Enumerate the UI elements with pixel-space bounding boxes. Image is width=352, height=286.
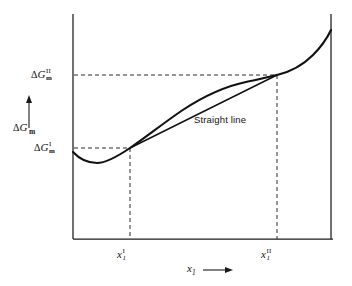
gm-II-affixes: IIm (46, 68, 52, 83)
x1-II-affixes: II1 (266, 248, 271, 263)
y-tick-label-delta-gm-I: ΔGIm (34, 141, 55, 156)
gibbs-energy-curve (73, 30, 331, 163)
subscript-m: m (46, 75, 52, 82)
g-symbol-upper: G (37, 68, 45, 80)
subscript-m-axis: m (29, 127, 35, 136)
x-symbol-right: x (261, 248, 266, 260)
x-tick-label-x1-I: xI1 (117, 248, 126, 263)
x-axis-title: x1 (187, 263, 196, 277)
gibbs-energy-figure: ΔGIIm ΔGIm ΔGm xI1 xII1 x1 Straight line (0, 0, 352, 286)
subscript-1: 1 (266, 255, 271, 262)
subscript-1-axis: 1 (192, 268, 196, 277)
x-tick-label-x1-II: xII1 (261, 248, 271, 263)
y-tick-label-delta-gm-II: ΔGIIm (31, 68, 52, 83)
g-symbol-axis: G (19, 121, 27, 133)
y-axis-title: ΔGm (13, 122, 35, 136)
x-symbol-left: x (117, 248, 122, 260)
x1-I-affixes: I1 (122, 248, 126, 263)
g-symbol-lower: G (40, 141, 48, 153)
straight-line-chord (130, 75, 277, 148)
straight-line-annotation: Straight line (194, 115, 246, 125)
subscript-m: m (49, 148, 55, 155)
subscript-1: 1 (122, 255, 126, 262)
y-axis-arrow-head (26, 95, 32, 103)
gm-I-affixes: Im (49, 141, 55, 156)
x-axis-arrow-head (225, 267, 233, 273)
